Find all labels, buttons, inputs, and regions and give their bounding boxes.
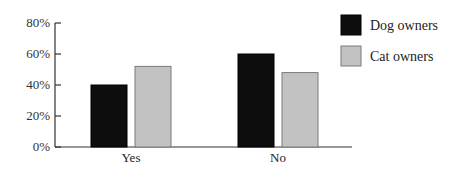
x-category-label: Yes	[122, 150, 141, 165]
bar-cat-owners-no	[282, 73, 318, 147]
bar-dog-owners-yes	[91, 85, 127, 147]
bar-dog-owners-no	[238, 54, 274, 147]
y-tick-label: 60%	[26, 46, 50, 61]
legend-label: Dog owners	[370, 18, 438, 33]
legend-label: Cat owners	[370, 49, 433, 64]
y-tick-label: 0%	[33, 139, 51, 154]
y-tick-label: 20%	[26, 108, 50, 123]
grouped-bar-chart: 0%20%40%60%80%YesNoDog ownersCat owners	[0, 0, 451, 173]
y-tick-label: 80%	[26, 15, 50, 30]
legend-swatch-cat-owners	[341, 46, 361, 66]
legend-swatch-dog-owners	[341, 15, 361, 35]
y-tick-label: 40%	[26, 77, 50, 92]
bar-cat-owners-yes	[135, 66, 171, 147]
x-category-label: No	[270, 150, 286, 165]
